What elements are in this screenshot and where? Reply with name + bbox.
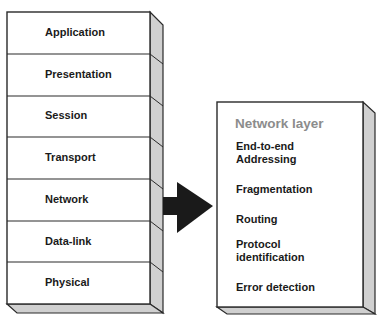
layer-physical: Physical xyxy=(45,276,90,289)
layer-application: Application xyxy=(45,26,105,39)
arrow-right-icon xyxy=(163,182,213,233)
detail-title: Network layer xyxy=(235,116,324,131)
detail-item-fragmentation: Fragmentation xyxy=(236,183,312,196)
layer-data-link: Data-link xyxy=(45,235,91,248)
layer-session: Session xyxy=(45,109,87,122)
detail-front-face xyxy=(217,102,363,307)
detail-item-addressing: End-to-end Addressing xyxy=(236,140,297,166)
detail-item-routing: Routing xyxy=(236,213,278,226)
detail-side-face xyxy=(363,102,375,314)
layer-transport: Transport xyxy=(45,151,96,164)
stack-side-face xyxy=(150,12,163,313)
stack-bottom-face xyxy=(7,304,163,313)
detail-item-error-detection: Error detection xyxy=(236,281,315,294)
layer-presentation: Presentation xyxy=(45,68,112,81)
detail-item-protocol-identification: Protocol identification xyxy=(236,238,304,264)
layer-network: Network xyxy=(45,193,88,206)
detail-bottom-face xyxy=(217,307,375,314)
